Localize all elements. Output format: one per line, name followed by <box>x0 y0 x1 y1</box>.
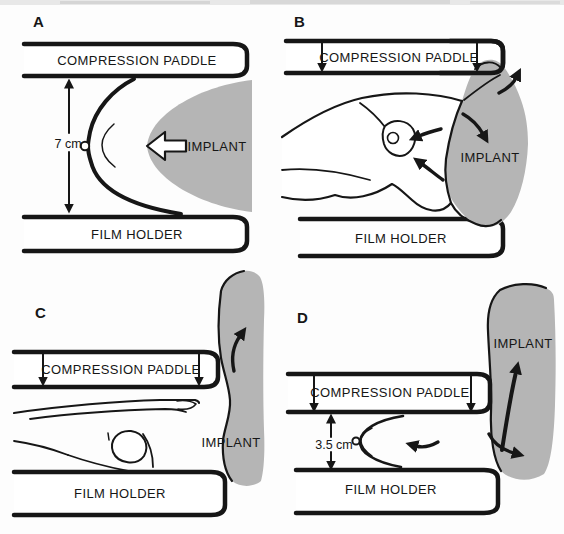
knuckle-tick <box>108 433 109 440</box>
compression-paddle-label: COMPRESSION PADDLE <box>57 53 216 68</box>
implant-shape <box>445 60 528 227</box>
panel-letter: D <box>297 309 308 326</box>
panel-d: 3.5 cm COMPRESSION PADDLE FILM HOLDER IM… <box>288 284 556 513</box>
panel-letter: B <box>294 13 305 30</box>
implant-label: IMPLANT <box>187 139 246 154</box>
finger-line <box>30 409 186 419</box>
nipple <box>352 437 359 444</box>
eklund-technique-diagram: 7 cm IMPLANT COMPRESSION PADDLE FILM HOL… <box>0 0 564 534</box>
panel-a: 7 cm IMPLANT COMPRESSION PADDLE FILM HOL… <box>24 13 252 251</box>
measurement-label: 7 cm <box>54 137 81 151</box>
scan-artifact-top <box>0 0 564 5</box>
thumb-loop <box>112 431 146 462</box>
panel-letter: A <box>33 13 44 30</box>
panel-b: COMPRESSION PADDLE FILM HOLDER IMPLANT B <box>282 13 528 256</box>
compression-paddle-label: COMPRESSION PADDLE <box>310 385 469 400</box>
compression-paddle-label: COMPRESSION PADDLE <box>41 362 200 377</box>
nipple <box>81 142 89 150</box>
implant-label: IMPLANT <box>493 336 552 351</box>
film-holder-label: FILM HOLDER <box>345 482 437 497</box>
panel-letter: C <box>35 304 46 321</box>
panel-c: COMPRESSION PADDLE FILM HOLDER IMPLANT C <box>14 271 264 515</box>
compression-paddle-label: COMPRESSION PADDLE <box>319 50 478 65</box>
motion-arrow-left <box>416 442 438 447</box>
scanned-figure-page: 7 cm IMPLANT COMPRESSION PADDLE FILM HOL… <box>0 0 564 534</box>
implant-label: IMPLANT <box>460 150 519 165</box>
measurement-label: 3.5 cm <box>315 438 353 452</box>
hand-lower-contour <box>14 441 68 455</box>
implant-label: IMPLANT <box>201 435 260 450</box>
film-holder-label: FILM HOLDER <box>74 486 166 501</box>
nipple-inner <box>388 133 399 144</box>
film-holder-label: FILM HOLDER <box>355 231 447 246</box>
areola-line <box>102 124 115 167</box>
film-holder-label: FILM HOLDER <box>91 227 183 242</box>
fingertip-nail <box>177 401 196 410</box>
breast-outline <box>360 416 403 467</box>
implant-shape <box>488 284 556 480</box>
